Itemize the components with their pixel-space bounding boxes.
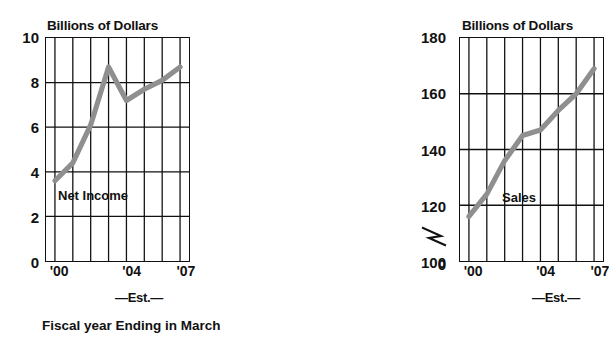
x-tick-label: '07 xyxy=(590,264,609,278)
y-tick-label: 4 xyxy=(31,165,39,180)
y-tick-label: 120 xyxy=(421,198,446,213)
x-tick-label: '04 xyxy=(536,264,555,278)
series-label-net-income: Net Income xyxy=(58,188,128,203)
x-tick-label: '00 xyxy=(50,264,69,278)
y-tick-label-zero: 0 xyxy=(438,257,446,272)
y-tick-label: 6 xyxy=(31,120,39,135)
chart-panel-net-income: Billions of Dollars 0246810 Net Income '… xyxy=(0,0,211,300)
y-tick-label: 180 xyxy=(421,30,446,45)
chart-axis-title-left: Billions of Dollars xyxy=(47,18,158,33)
chart-panel-sales: Billions of Dollars 1001201401601800 Sal… xyxy=(207,0,422,300)
figure-caption: Fiscal year Ending in March xyxy=(42,318,221,333)
plot-area-sales xyxy=(459,37,604,262)
y-tick-label: 140 xyxy=(421,142,446,157)
data-line-net-income xyxy=(46,38,189,261)
x-tick-label: '04 xyxy=(122,264,141,278)
y-tick-label: 8 xyxy=(31,75,39,90)
estimate-marker-left: —Est.— xyxy=(115,290,163,305)
series-label-sales: Sales xyxy=(502,190,536,205)
y-tick-label: 160 xyxy=(421,86,446,101)
x-axis-labels-right: '00'04'07 xyxy=(459,264,604,284)
data-line-sales xyxy=(460,38,603,261)
chart-axis-title-right: Billions of Dollars xyxy=(462,18,573,33)
axis-break-icon xyxy=(419,222,451,248)
plot-area-net-income xyxy=(45,37,190,262)
x-tick-label: '07 xyxy=(176,264,195,278)
y-tick-label: 0 xyxy=(31,255,39,270)
y-axis-labels-left: 0246810 xyxy=(0,37,44,262)
y-tick-label: 10 xyxy=(22,30,39,45)
estimate-marker-right: —Est.— xyxy=(532,290,580,305)
x-tick-label: '00 xyxy=(464,264,483,278)
x-axis-labels-left: '00'04'07 xyxy=(45,264,190,284)
y-tick-label: 2 xyxy=(31,210,39,225)
